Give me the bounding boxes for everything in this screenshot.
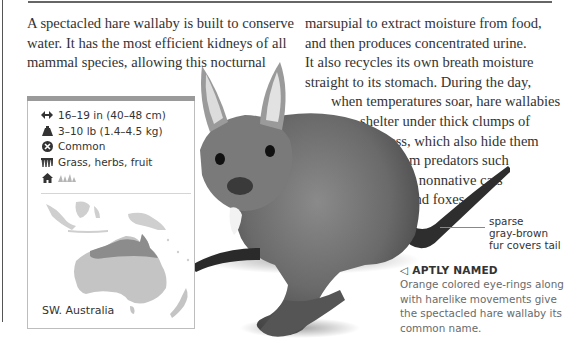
stat-weight: 3–10 lb (1.4–4.5 kg) bbox=[41, 123, 166, 139]
aptly-named-description: Orange colored eye-rings along with hare… bbox=[400, 277, 564, 335]
stat-habitat bbox=[41, 170, 166, 186]
stat-length-text: 16–19 in (40–48 cm) bbox=[58, 109, 166, 121]
status-circle-x-icon bbox=[41, 141, 53, 152]
habitat-house-icon bbox=[41, 173, 53, 184]
stat-length: 16–19 in (40–48 cm) bbox=[41, 107, 166, 123]
aptly-title-text: APTLY NAMED bbox=[412, 264, 498, 276]
text-line: water. It has the most efficient kidneys… bbox=[27, 34, 294, 54]
grassland-icon bbox=[58, 172, 76, 184]
stats-list: 16–19 in (40–48 cm) 3–10 lb (1.4–4.5 kg)… bbox=[41, 107, 166, 186]
top-rule bbox=[28, 1, 552, 3]
tail-caption: sparse gray-brown fur covers tail bbox=[489, 216, 561, 251]
stat-weight-text: 3–10 lb (1.4–4.5 kg) bbox=[58, 125, 162, 137]
caption-line: gray-brown bbox=[489, 228, 561, 240]
aptly-named-title: ◁APTLY NAMED bbox=[400, 264, 564, 276]
stat-diet-text: Grass, herbs, fruit bbox=[58, 156, 152, 168]
text-line: marsupial to extract moisture from food, bbox=[305, 14, 560, 34]
fact-panel: 16–19 in (40–48 cm) 3–10 lb (1.4–4.5 kg)… bbox=[27, 96, 195, 329]
caption-line: with harelike movements give bbox=[400, 292, 564, 307]
weight-icon bbox=[41, 125, 53, 136]
text-line: and then produces concentrated urine. bbox=[305, 34, 560, 54]
aptly-named-caption: ◁APTLY NAMED Orange colored eye-rings al… bbox=[400, 264, 564, 335]
panel-top-bar bbox=[27, 96, 195, 101]
stat-status: Common bbox=[41, 139, 166, 155]
stat-status-text: Common bbox=[58, 140, 105, 152]
caption-line: fur covers tail bbox=[489, 240, 561, 252]
page-edge-line bbox=[2, 0, 3, 322]
stat-diet: Grass, herbs, fruit bbox=[41, 154, 166, 170]
caption-line: common name. bbox=[400, 321, 564, 336]
map-label: SW. Australia bbox=[42, 304, 114, 317]
caption-line: Orange colored eye-rings along bbox=[400, 277, 564, 292]
length-arrows-icon bbox=[41, 109, 53, 120]
caption-line: the spectacled hare wallaby its bbox=[400, 306, 564, 321]
text-line: A spectacled hare wallaby is built to co… bbox=[27, 14, 294, 34]
panel-divider bbox=[41, 193, 191, 194]
diet-grass-icon bbox=[41, 157, 53, 168]
tail-leader-line bbox=[440, 227, 485, 228]
pointer-triangle-icon: ◁ bbox=[400, 264, 408, 276]
